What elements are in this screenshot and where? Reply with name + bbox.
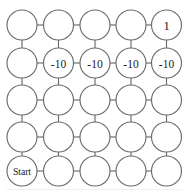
graph-node-circle <box>116 85 146 115</box>
graph-node <box>116 85 146 115</box>
scan-artifact-line <box>6 189 182 190</box>
graph-node-circle <box>152 85 182 115</box>
graph-node: 1 <box>152 10 182 40</box>
graph-node-circle <box>7 122 37 152</box>
graph-node <box>7 10 37 40</box>
gridworld-diagram: 1-10-10-10-10Start <box>0 0 187 194</box>
graph-node: -10 <box>44 48 74 78</box>
graph-node-circle <box>7 156 37 186</box>
graph-node <box>7 48 37 78</box>
graph-node <box>80 156 110 186</box>
graph-node <box>7 85 37 115</box>
graph-node-circle <box>80 48 110 78</box>
graph-node <box>80 10 110 40</box>
graph-node-circle <box>7 10 37 40</box>
graph-node <box>116 10 146 40</box>
graph-node-circle <box>7 48 37 78</box>
graph-node-circle <box>152 10 182 40</box>
graph-node-circle <box>44 48 74 78</box>
graph-node-circle <box>44 122 74 152</box>
graph-node-circle <box>116 156 146 186</box>
graph-node <box>44 10 74 40</box>
graph-node <box>44 85 74 115</box>
graph-node-circle <box>116 122 146 152</box>
graph-node-circle <box>152 48 182 78</box>
graph-node <box>7 122 37 152</box>
graph-node <box>116 122 146 152</box>
node-layer: 1-10-10-10-10Start <box>7 10 182 186</box>
graph-node-circle <box>44 85 74 115</box>
graph-node: -10 <box>152 48 182 78</box>
graph-node-circle <box>80 156 110 186</box>
graph-node <box>152 85 182 115</box>
graph-node-circle <box>152 122 182 152</box>
graph-node: Start <box>7 156 37 186</box>
graph-node: -10 <box>80 48 110 78</box>
graph-node-circle <box>7 85 37 115</box>
graph-node: -10 <box>116 48 146 78</box>
graph-node-circle <box>152 156 182 186</box>
graph-node-circle <box>116 48 146 78</box>
graph-node-circle <box>44 10 74 40</box>
graph-node <box>80 85 110 115</box>
graph-node <box>44 156 74 186</box>
graph-node-circle <box>80 85 110 115</box>
graph-node-circle <box>44 156 74 186</box>
graph-node <box>152 122 182 152</box>
graph-node-circle <box>80 122 110 152</box>
graph-node <box>152 156 182 186</box>
graph-node-circle <box>80 10 110 40</box>
grid-graph-canvas: 1-10-10-10-10Start <box>0 0 187 194</box>
graph-node <box>116 156 146 186</box>
graph-node <box>80 122 110 152</box>
graph-node <box>44 122 74 152</box>
graph-node-circle <box>116 10 146 40</box>
